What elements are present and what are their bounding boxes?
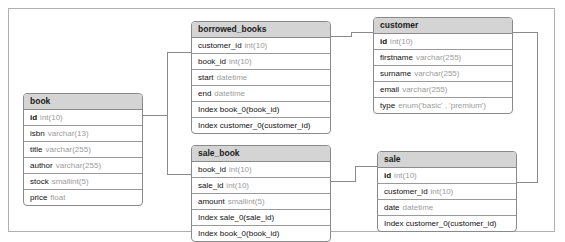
connector-customer-stub <box>513 32 537 33</box>
field-type: varchar(255) <box>416 53 461 62</box>
field-name: start <box>198 73 214 82</box>
field-type: varchar(255) <box>414 69 459 78</box>
field-name: Index customer_0(customer_id) <box>198 121 311 130</box>
connector-book-trunk <box>167 52 168 174</box>
field-type: datetime <box>217 73 248 82</box>
table-sale[interactable]: sale idint(10) customer_idint(10) dateda… <box>377 151 517 232</box>
field-type: varchar(13) <box>48 129 89 138</box>
table-sale-book-title: sale_book <box>192 146 330 162</box>
table-row[interactable]: book_idint(10) <box>192 162 330 178</box>
field-type: float <box>50 193 65 202</box>
table-customer[interactable]: customer idint(10) firstnamevarchar(255)… <box>373 17 513 114</box>
field-type: int(10) <box>229 165 252 174</box>
table-row[interactable]: titlevarchar(255) <box>24 142 142 158</box>
table-row[interactable]: typeenum('basic' , 'premium') <box>374 98 512 113</box>
field-type: int(10) <box>245 41 268 50</box>
table-row-index[interactable]: Index book_0(book_id) <box>192 226 330 241</box>
table-row[interactable]: enddatetime <box>192 86 330 102</box>
field-name: book_id <box>198 57 226 66</box>
table-book[interactable]: book idint(10) isbnvarchar(13) titlevarc… <box>23 93 143 206</box>
table-row[interactable]: idint(10) <box>378 168 516 184</box>
field-name: customer_id <box>384 187 428 196</box>
table-customer-title: customer <box>374 18 512 34</box>
field-name: type <box>380 101 395 110</box>
field-name: author <box>30 161 53 170</box>
field-name: Index sale_0(sale_id) <box>198 213 274 222</box>
connector-customer-to-sale-trunk <box>537 32 538 182</box>
field-name: sale_id <box>198 181 223 190</box>
field-name: Index book_0(book_id) <box>198 229 279 238</box>
table-borrowed-books[interactable]: borrowed_books customer_idint(10) book_i… <box>191 21 331 134</box>
field-type: int(10) <box>229 57 252 66</box>
table-row[interactable]: emailvarchar(255) <box>374 82 512 98</box>
field-name: date <box>384 203 400 212</box>
table-row[interactable]: customer_idint(10) <box>378 184 516 200</box>
connector-borrowed-books-to-customer-a <box>331 36 351 37</box>
connector-book-to-borrowed-books <box>167 52 191 53</box>
table-row[interactable]: datedatetime <box>378 200 516 216</box>
field-name: id <box>384 171 391 180</box>
table-row-index[interactable]: Index book_0(book_id) <box>192 102 330 118</box>
connector-borrowed-books-to-customer-b <box>351 32 373 33</box>
field-type: smallint(5) <box>52 177 89 186</box>
field-type: int(10) <box>390 37 413 46</box>
table-row[interactable]: idint(10) <box>374 34 512 50</box>
table-row[interactable]: isbnvarchar(13) <box>24 126 142 142</box>
field-name: title <box>30 145 42 154</box>
table-row[interactable]: amountsmallint(5) <box>192 194 330 210</box>
field-name: amount <box>198 197 225 206</box>
table-row[interactable]: idint(10) <box>24 110 142 126</box>
table-row[interactable]: stocksmallint(5) <box>24 174 142 190</box>
table-borrowed-books-title: borrowed_books <box>192 22 330 38</box>
field-name: firstname <box>380 53 413 62</box>
table-row[interactable]: surnamevarchar(255) <box>374 66 512 82</box>
connector-sale-book-to-sale-v <box>355 166 356 182</box>
field-type: int(10) <box>40 113 63 122</box>
field-type: datetime <box>403 203 434 212</box>
field-type: int(10) <box>226 181 249 190</box>
field-type: int(10) <box>394 171 417 180</box>
connector-customer-to-sale <box>517 182 538 183</box>
field-type: varchar(255) <box>402 85 447 94</box>
field-name: Index customer_0(customer_id) <box>384 219 497 228</box>
field-name: Index book_0(book_id) <box>198 105 279 114</box>
table-row[interactable]: sale_idint(10) <box>192 178 330 194</box>
connector-book-to-sale-book <box>167 174 191 175</box>
field-name: isbn <box>30 129 45 138</box>
field-name: book_id <box>198 165 226 174</box>
table-row[interactable]: customer_idint(10) <box>192 38 330 54</box>
field-name: stock <box>30 177 49 186</box>
field-type: enum('basic' , 'premium') <box>398 101 486 110</box>
table-sale-book[interactable]: sale_book book_idint(10) sale_idint(10) … <box>191 145 331 242</box>
field-type: smallint(5) <box>228 197 265 206</box>
diagram-frame: book idint(10) isbnvarchar(13) titlevarc… <box>8 8 555 232</box>
table-row[interactable]: pricefloat <box>24 190 142 205</box>
table-row[interactable]: startdatetime <box>192 70 330 86</box>
table-row-index[interactable]: Index sale_0(sale_id) <box>192 210 330 226</box>
er-diagram-canvas: book idint(10) isbnvarchar(13) titlevarc… <box>0 0 565 242</box>
table-row-index[interactable]: Index customer_0(customer_id) <box>192 118 330 133</box>
connector-book-stub <box>143 115 167 116</box>
field-name: email <box>380 85 399 94</box>
field-type: int(10) <box>431 187 454 196</box>
field-type: varchar(255) <box>45 145 90 154</box>
connector-sale-book-to-sale-a <box>331 181 355 182</box>
table-sale-title: sale <box>378 152 516 168</box>
field-name: id <box>30 113 37 122</box>
field-type: datetime <box>214 89 245 98</box>
field-name: end <box>198 89 211 98</box>
table-row[interactable]: authorvarchar(255) <box>24 158 142 174</box>
table-row[interactable]: firstnamevarchar(255) <box>374 50 512 66</box>
field-type: varchar(255) <box>56 161 101 170</box>
table-row-index[interactable]: Index customer_0(customer_id) <box>378 216 516 231</box>
connector-sale-book-to-sale-b <box>355 166 377 167</box>
table-book-title: book <box>24 94 142 110</box>
table-row[interactable]: book_idint(10) <box>192 54 330 70</box>
field-name: price <box>30 193 47 202</box>
field-name: customer_id <box>198 41 242 50</box>
field-name: surname <box>380 69 411 78</box>
field-name: id <box>380 37 387 46</box>
